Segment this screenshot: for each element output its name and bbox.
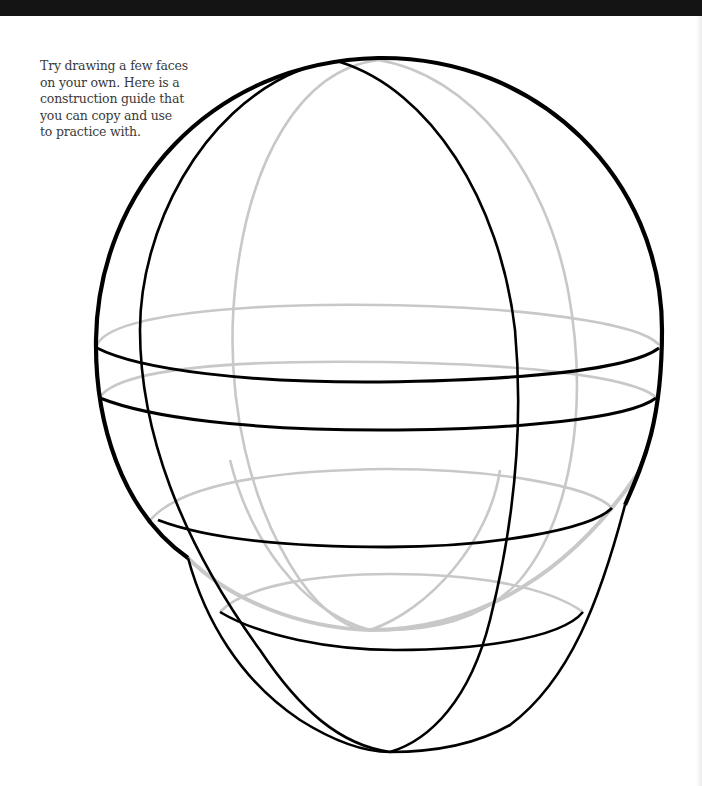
caption-line: you can copy and use <box>40 108 180 125</box>
caption-line: Try drawing a few faces <box>40 58 180 75</box>
caption-line: to practice with. <box>40 124 180 141</box>
instruction-caption: Try drawing a few faces on your own. Her… <box>40 58 180 141</box>
back-ring-nose <box>148 469 612 523</box>
cranium-outline <box>96 58 662 558</box>
caption-line: on your own. Here is a <box>40 75 180 92</box>
caption-line: construction guide that <box>40 91 180 108</box>
back-ring-mouth <box>220 574 583 612</box>
face-side-line <box>140 70 390 752</box>
eye-line <box>100 398 656 430</box>
back-lower-arc-right <box>370 470 500 630</box>
back-ring-eye <box>100 362 656 397</box>
back-meridian-outer <box>370 60 577 630</box>
back-guidelines <box>97 60 659 630</box>
